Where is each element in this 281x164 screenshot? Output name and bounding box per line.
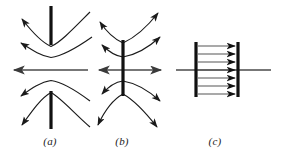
- panel-a-field-curve-inner-bottom: [21, 81, 90, 102]
- panel-b-caption: (b): [102, 136, 142, 147]
- panel-b-field-curve-inner-top: [102, 37, 160, 57]
- panel-a: [14, 6, 92, 129]
- panel-a-field-curve-outer-bottom: [22, 93, 90, 128]
- panel-a-caption: (a): [30, 136, 70, 147]
- panel-a-field-curve-inner-top: [21, 37, 92, 58]
- panel-a-field-curve-outer-top: [22, 12, 90, 47]
- panel-c: [176, 42, 271, 97]
- panel-b: [98, 13, 161, 127]
- figure-container: (a) (b) (c): [0, 0, 281, 164]
- panel-c-caption: (c): [195, 136, 235, 147]
- panel-b-field-curve-outer-top: [100, 13, 158, 43]
- panel-b-field-curve-outer-bottom: [98, 94, 157, 127]
- panel-b-field-curve-inner-bottom: [102, 81, 160, 101]
- panel-c-field-arrows: [198, 46, 235, 94]
